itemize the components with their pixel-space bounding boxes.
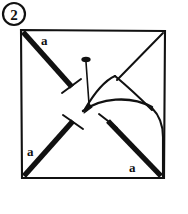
figure-background	[0, 0, 188, 214]
diagram-canvas: 2 a a a	[0, 0, 188, 214]
step-number-label: 2	[10, 7, 18, 23]
origami-step-figure: 2 a a a	[0, 0, 188, 214]
fold-label-a-bottom-right: a	[129, 160, 136, 175]
fold-label-a-top-left: a	[41, 33, 48, 48]
fold-label-a-bottom-left: a	[27, 144, 34, 159]
